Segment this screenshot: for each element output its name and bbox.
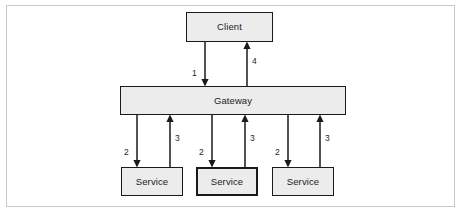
edge-gateway-to-service-1	[133, 115, 140, 168]
edge-label-service-2-to-gateway: 3	[250, 134, 255, 143]
edge-label-client-to-gateway: 1	[192, 69, 197, 78]
edge-gateway-to-client	[243, 42, 250, 87]
node-client: Client	[186, 12, 273, 42]
diagram-canvas: Client Gateway Service Service Service 1…	[0, 0, 468, 217]
node-client-label: Client	[217, 22, 242, 32]
edge-label-gateway-to-client: 4	[252, 57, 257, 66]
node-service-1-label: Service	[136, 177, 168, 187]
node-service-3-label: Service	[287, 177, 319, 187]
edge-service-2-to-gateway	[241, 115, 248, 168]
edge-label-gateway-to-service-2: 2	[199, 148, 204, 157]
edge-label-service-1-to-gateway: 3	[175, 134, 180, 143]
edge-label-service-3-to-gateway: 3	[325, 134, 330, 143]
edge-label-gateway-to-service-3: 2	[275, 148, 280, 157]
edge-service-3-to-gateway	[316, 115, 323, 168]
node-service-2-label: Service	[211, 177, 243, 187]
edge-client-to-gateway	[201, 42, 208, 87]
node-gateway-label: Gateway	[214, 96, 252, 106]
edge-service-1-to-gateway	[166, 115, 173, 168]
edge-gateway-to-service-3	[284, 115, 291, 168]
node-service-3: Service	[272, 167, 334, 196]
node-service-1: Service	[121, 167, 183, 196]
node-gateway: Gateway	[120, 86, 346, 115]
edge-label-gateway-to-service-1: 2	[124, 148, 129, 157]
edge-gateway-to-service-2	[208, 115, 215, 168]
node-service-2: Service	[196, 167, 258, 196]
